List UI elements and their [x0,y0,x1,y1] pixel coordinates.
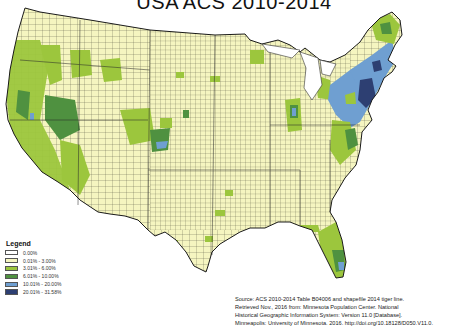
legend-label: 10.01% - 20.00% [23,281,61,287]
source-line: Source: ACS 2010-2014 Table B04006 and s… [235,296,433,304]
legend-label: 6.01% - 10.00% [23,273,59,279]
legend-item: 3.01% - 6.00% [5,265,85,272]
legend-item: 20.01% - 31.58% [5,288,85,295]
legend-title: Legend [6,240,85,247]
legend-swatch [5,250,18,256]
legend-item: 10.01% - 20.00% [5,281,85,288]
legend-item: 0.01% - 3.00% [5,257,85,264]
source-citation: Source: ACS 2010-2014 Table B04006 and s… [235,296,433,328]
legend-label: 0.00% [23,250,37,256]
source-line: Minneapolis: University of Minnesota. 20… [235,320,433,328]
legend-label: 20.01% - 31.58% [23,289,61,295]
legend-swatch [5,282,18,288]
legend-swatch [5,274,18,280]
legend: Legend 0.00% 0.01% - 3.00% 3.01% - 6.00%… [5,240,85,296]
legend-label: 0.01% - 3.00% [23,258,56,264]
legend-item: 6.01% - 10.00% [5,273,85,280]
source-line: Historical Geographic Information System… [235,312,433,320]
legend-swatch [5,266,18,272]
legend-swatch [5,289,18,295]
source-line: Retrieved Nov., 2016 from: Minnesota Pop… [235,304,433,312]
legend-item: 0.00% [5,249,85,256]
legend-swatch [5,258,18,264]
map-title: USA ACS 2010-2014 [0,0,468,14]
legend-label: 3.01% - 6.00% [23,265,56,271]
